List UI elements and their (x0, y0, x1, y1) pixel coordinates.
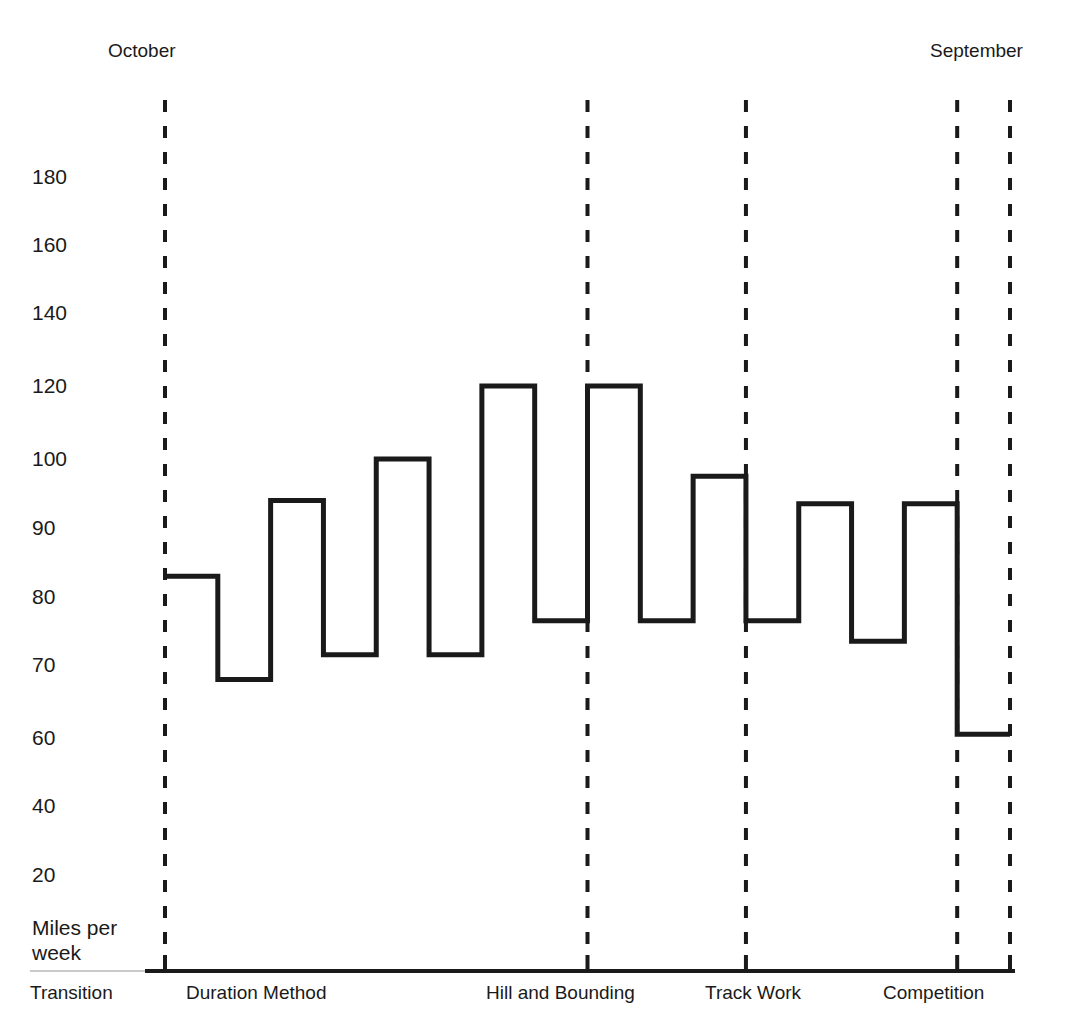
phase-label-transition: Transition (30, 982, 113, 1004)
chart-canvas: October September 180 160 140 120 100 90… (0, 0, 1072, 1021)
phase-label-competition: Competition (883, 982, 984, 1004)
plot-area (0, 0, 1072, 1021)
phase-label-track-work: Track Work (705, 982, 801, 1004)
x-axis-group (30, 955, 1015, 971)
phase-label-duration-method: Duration Method (186, 982, 326, 1004)
phase-label-hill-and-bounding: Hill and Bounding (486, 982, 635, 1004)
